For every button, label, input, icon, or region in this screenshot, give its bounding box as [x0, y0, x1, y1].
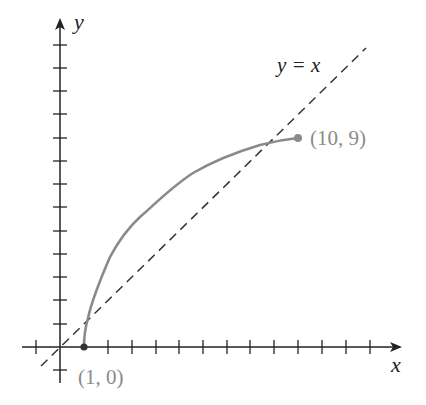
start-point-label: (1, 0) [78, 365, 124, 389]
diagram-canvas: y x y = x (1, 0) (10, 9) [0, 0, 426, 405]
x-axis [22, 340, 400, 354]
start-point-marker [80, 343, 87, 350]
y-axis-label: y [72, 9, 84, 34]
x-axis-label: x [390, 352, 401, 377]
curve [84, 138, 298, 347]
identity-line [41, 48, 366, 366]
line-label: y = x [275, 53, 321, 77]
end-point-label: (10, 9) [310, 126, 366, 150]
y-axis [53, 20, 67, 383]
end-point-marker [294, 134, 302, 142]
